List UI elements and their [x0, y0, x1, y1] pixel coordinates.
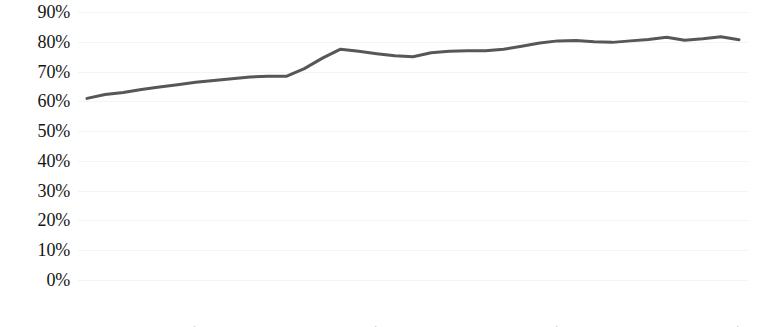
y-tick-label: 0%	[46, 271, 70, 289]
series-line	[87, 37, 739, 99]
gridline	[78, 280, 748, 281]
y-tick-label: 70%	[38, 63, 70, 81]
y-tick-label: 80%	[38, 33, 70, 51]
y-tick-label: 60%	[38, 92, 70, 110]
y-tick-label: 30%	[38, 182, 70, 200]
y-tick-label: 90%	[38, 3, 70, 21]
y-tick-label: 50%	[38, 122, 70, 140]
y-axis: 90%80%70%60%50%40%30%20%10%0%	[0, 0, 78, 327]
y-tick-label: 20%	[38, 211, 70, 229]
plot-area	[78, 12, 748, 280]
y-tick-label: 10%	[38, 241, 70, 259]
y-tick-label: 40%	[38, 152, 70, 170]
x-axis: 1979198019811982198319841985198619871988…	[78, 282, 748, 327]
series-line-layer	[78, 12, 748, 280]
line-chart: 90%80%70%60%50%40%30%20%10%0% 1979198019…	[0, 0, 771, 327]
